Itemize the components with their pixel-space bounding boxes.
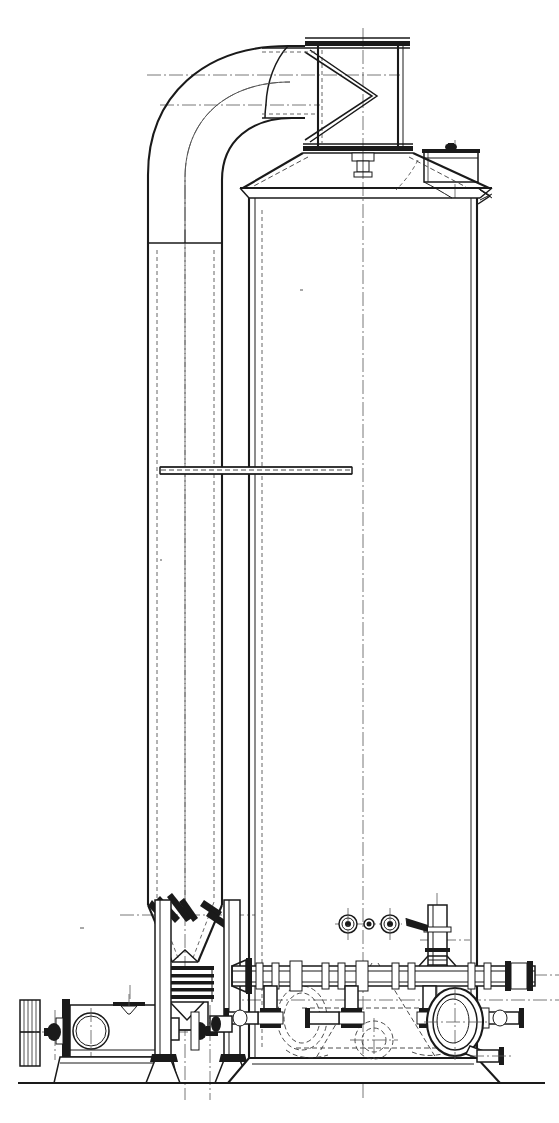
intermediate-platform-beam [160, 467, 352, 474]
base-skirt [228, 1058, 500, 1083]
sight-nozzle-center [364, 919, 374, 929]
drawing-sheet [0, 0, 559, 1123]
riser-to-header-link [210, 1016, 232, 1032]
engineering-drawing-canvas [0, 0, 559, 1123]
pipe-collars [256, 961, 533, 991]
